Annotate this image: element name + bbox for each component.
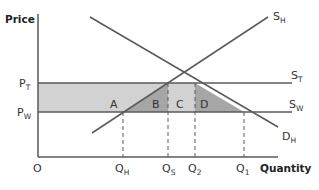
x-axis-label: Quantity [260, 162, 312, 174]
area-a-label: A [110, 98, 118, 111]
sh-label: SH [273, 10, 286, 25]
y-axis-label: Price [5, 13, 35, 25]
st-label: ST [291, 69, 303, 84]
qs-label: QS [162, 162, 176, 177]
q2-label: Q2 [188, 162, 202, 177]
area-c-label: C [176, 98, 184, 111]
sw-label: SW [289, 98, 304, 113]
pt-label: PT [19, 77, 31, 92]
origin-label: O [33, 162, 42, 175]
tariff-diagram: Price Quantity O PT PW QH QS Q2 Q1 SH ST… [0, 0, 319, 190]
pw-label: PW [17, 106, 32, 121]
area-d-label: D [200, 98, 208, 111]
area-b-label: B [152, 98, 160, 111]
qh-label: QH [115, 162, 129, 177]
q1-label: Q1 [236, 162, 250, 177]
dh-label: DH [282, 130, 296, 145]
